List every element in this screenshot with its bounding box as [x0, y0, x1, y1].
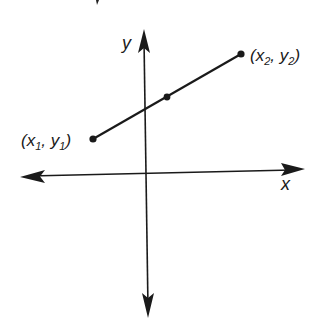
- p2-var-x: x: [255, 46, 265, 65]
- x-axis-label: x: [280, 174, 291, 194]
- point-p1: [89, 135, 96, 142]
- x-axis: [20, 163, 305, 183]
- cropped-text-fragment: [96, 0, 99, 5]
- p2-sub-x: 2: [263, 55, 270, 67]
- p2-sub-y: 2: [287, 55, 294, 67]
- point-midpoint: [164, 94, 171, 101]
- coordinate-diagram: y x (x1, y1) (x2, y2): [0, 0, 323, 328]
- line-segment: [89, 50, 244, 142]
- y-axis-label: y: [120, 33, 132, 53]
- point-p2-label: (x2, y2): [250, 46, 300, 67]
- p1-var-x: x: [26, 131, 36, 150]
- point-p2: [237, 50, 244, 57]
- point-p1-label: (x1, y1): [21, 131, 71, 152]
